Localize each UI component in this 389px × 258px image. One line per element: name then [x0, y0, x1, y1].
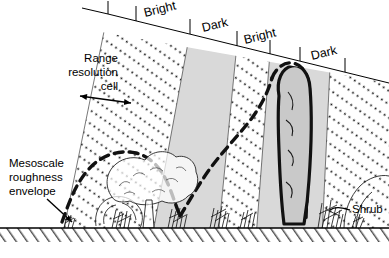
band-label-bright-2: Bright: [242, 25, 278, 47]
beam-bands: [62, 12, 389, 238]
mesoscale-label-line-1: Mesoscale: [9, 157, 64, 169]
bush-tall-right-outline: [278, 66, 311, 224]
band-label-bright-1: Bright: [142, 0, 178, 20]
band-label-dark-1: Dark: [200, 15, 230, 35]
bush-tall-right: [278, 66, 311, 224]
range-resolution-cell-line-2: resolution: [68, 66, 118, 78]
shrub-label-text: Shrub: [352, 203, 383, 215]
range-resolution-cell-line-1: Range: [84, 52, 118, 64]
mesoscale-label-line-2: roughness: [9, 171, 63, 183]
mesoscale-label-line-3: envelope: [9, 185, 56, 197]
band-label-dark-2: Dark: [309, 43, 339, 63]
range-resolution-cell-line-3: cell: [101, 80, 118, 92]
ground-hatch: [0, 228, 389, 242]
ground: [0, 228, 389, 242]
mesoscale-roughness-envelope-annotation: Mesoscale roughness envelope: [9, 157, 72, 222]
radar-range-resolution-figure: Bright Dark Bright Dark Range resolution…: [0, 0, 389, 258]
incidence-line-lead: [82, 8, 108, 14]
